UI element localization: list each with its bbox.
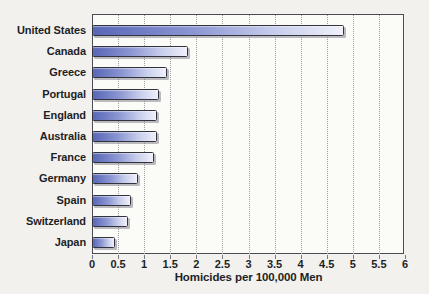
bar-france — [92, 152, 154, 163]
bar-portugal — [92, 89, 159, 100]
gridline — [222, 15, 223, 254]
category-label-greece: Greece — [0, 66, 86, 79]
gridline — [327, 15, 328, 254]
category-label-switzerland: Switzerland — [0, 215, 86, 228]
bar-england — [92, 110, 157, 121]
bar-germany — [92, 173, 138, 184]
gridline — [379, 15, 380, 254]
bar-spain — [92, 195, 131, 206]
category-label-portugal: Portugal — [0, 88, 86, 101]
homicide-bar-chart: Homicides per 100,000 Men 00.511.522.533… — [0, 0, 429, 294]
category-label-spain: Spain — [0, 194, 86, 207]
gridline — [353, 15, 354, 254]
category-label-germany: Germany — [0, 172, 86, 185]
category-label-france: France — [0, 151, 86, 164]
category-label-canada: Canada — [0, 45, 86, 58]
gridline — [196, 15, 197, 254]
bar-united-states — [92, 25, 344, 36]
bar-greece — [92, 67, 167, 78]
gridline — [249, 15, 250, 254]
category-label-japan: Japan — [0, 236, 86, 249]
x-axis-title: Homicides per 100,000 Men — [92, 271, 405, 284]
bar-australia — [92, 131, 157, 142]
category-label-england: England — [0, 109, 86, 122]
category-label-united-states: United States — [0, 24, 86, 37]
bar-switzerland — [92, 216, 128, 227]
x-tick-label: 6 — [388, 258, 422, 270]
gridline — [275, 15, 276, 254]
bar-canada — [92, 46, 188, 57]
gridline — [301, 15, 302, 254]
category-label-australia: Australia — [0, 130, 86, 143]
bar-japan — [92, 237, 115, 248]
